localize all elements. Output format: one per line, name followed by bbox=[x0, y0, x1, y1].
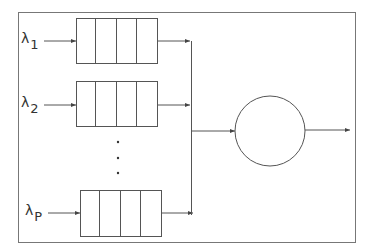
arrival-rate-label-2: λ2 bbox=[21, 95, 39, 115]
lambda-symbol: λ bbox=[21, 94, 29, 110]
subscript: 2 bbox=[30, 101, 38, 116]
queue-p bbox=[48, 191, 193, 237]
subscript: 1 bbox=[30, 37, 38, 52]
queue-1 bbox=[44, 19, 190, 64]
lambda-symbol: λ bbox=[25, 202, 33, 218]
server-circle bbox=[235, 96, 305, 166]
subscript: P bbox=[34, 209, 42, 224]
arrival-rate-label-1: λ1 bbox=[21, 31, 39, 51]
arrival-rate-label-p: λP bbox=[25, 203, 42, 223]
ellipsis-dots bbox=[117, 141, 119, 174]
queueing-diagram bbox=[0, 0, 373, 252]
queue-2 bbox=[44, 82, 190, 127]
lambda-symbol: λ bbox=[21, 30, 29, 46]
